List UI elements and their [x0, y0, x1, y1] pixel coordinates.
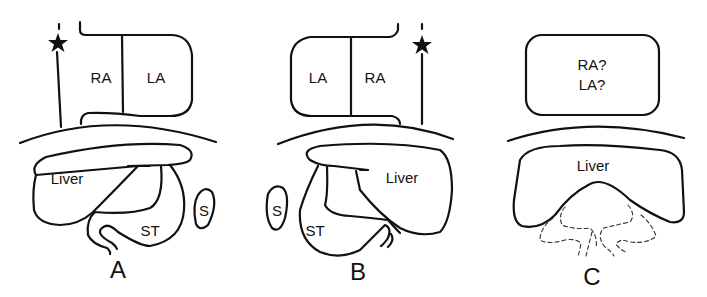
label-stomach: ST [140, 222, 159, 239]
label-liver: Liver [577, 157, 610, 174]
label-la: LA [309, 69, 327, 86]
label-spleen: S [272, 202, 282, 219]
label-la: LA [147, 69, 165, 86]
liver-outline [307, 144, 452, 235]
panel-label-c: C [583, 263, 600, 290]
label-la-question: LA? [579, 76, 606, 93]
panel-c: RA? LA? Liver C [508, 35, 684, 290]
atria-outline [526, 35, 659, 115]
label-ra: RA [365, 69, 386, 86]
situs-diagram: RA LA Liver ST S A LA RA Liver ST [0, 0, 707, 297]
label-stomach: ST [305, 222, 324, 239]
label-liver: Liver [51, 170, 84, 187]
panel-label-a: A [110, 256, 126, 283]
star-icon [48, 33, 68, 52]
panel-a: RA LA Liver ST S A [20, 22, 216, 283]
label-ra-question: RA? [577, 56, 606, 73]
diaphragm [508, 127, 684, 141]
stomach-outline [88, 165, 185, 254]
diaphragm [278, 125, 453, 144]
panel-label-b: B [350, 258, 366, 285]
label-ra: RA [91, 69, 112, 86]
label-spleen: S [199, 202, 209, 219]
label-liver: Liver [386, 169, 419, 186]
star-icon [412, 35, 432, 54]
diaphragm [20, 125, 216, 143]
ivc-line [57, 52, 61, 127]
atrial-septum [122, 36, 123, 112]
panel-b: LA RA Liver ST S B [267, 24, 453, 285]
